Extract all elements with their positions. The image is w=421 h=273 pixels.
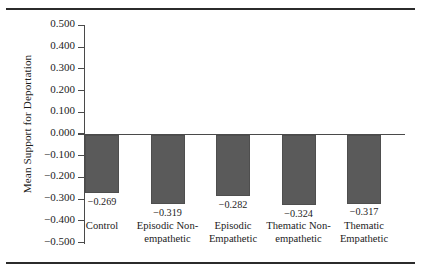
x-axis-category-label: ThematicEmpathetic (318, 219, 410, 246)
y-tick-mark (78, 68, 84, 69)
y-tick-label: 0.400 (50, 39, 75, 51)
y-tick-label: −0.400 (44, 213, 75, 225)
y-tick-label: −0.500 (44, 235, 75, 247)
bar[interactable] (282, 135, 316, 205)
y-tick-mark (78, 47, 84, 48)
y-tick-label: 0.200 (50, 83, 75, 95)
bar-value-label: −0.319 (151, 207, 185, 218)
bar-item[interactable]: −0.317ThematicEmpathetic (347, 0, 381, 273)
bar-value-label: −0.269 (85, 196, 119, 207)
y-tick-mark (78, 25, 84, 26)
bar-item[interactable]: −0.269Control (85, 0, 119, 273)
x-axis-category-line: Thematic (318, 219, 410, 232)
bar[interactable] (347, 135, 381, 204)
y-tick-mark (78, 199, 84, 200)
y-tick-label: −0.100 (44, 148, 75, 160)
y-axis-title: Mean Support for Deportation (21, 19, 33, 229)
bar[interactable] (85, 135, 119, 193)
bar-item[interactable]: −0.282EpisodicEmpathetic (216, 0, 250, 273)
y-tick-label: −0.200 (44, 169, 75, 181)
y-tick-mark (78, 133, 84, 134)
bar-item[interactable]: −0.319Episodic Non-empathetic (151, 0, 185, 273)
bar-value-label: −0.282 (216, 199, 250, 210)
y-tick-label: 0.300 (50, 61, 75, 73)
y-tick-label: −0.300 (44, 191, 75, 203)
y-tick-label: 0.500 (50, 17, 75, 29)
y-tick-label: 0.000 (50, 126, 75, 138)
y-tick-mark (78, 242, 84, 243)
y-tick-mark (78, 90, 84, 91)
bar-value-label: −0.317 (347, 206, 381, 217)
y-tick-label: 0.100 (50, 104, 75, 116)
bar-value-label: −0.324 (282, 208, 316, 219)
bar[interactable] (216, 135, 250, 196)
bar-item[interactable]: −0.324Thematic Non-empathetic (282, 0, 316, 273)
y-tick-mark (78, 155, 84, 156)
figure-panel: Mean Support for Deportation 0.5000.4000… (0, 0, 421, 273)
x-axis-category-line: Empathetic (318, 232, 410, 245)
y-tick-mark (78, 177, 84, 178)
y-tick-mark (78, 112, 84, 113)
bar[interactable] (151, 135, 185, 204)
